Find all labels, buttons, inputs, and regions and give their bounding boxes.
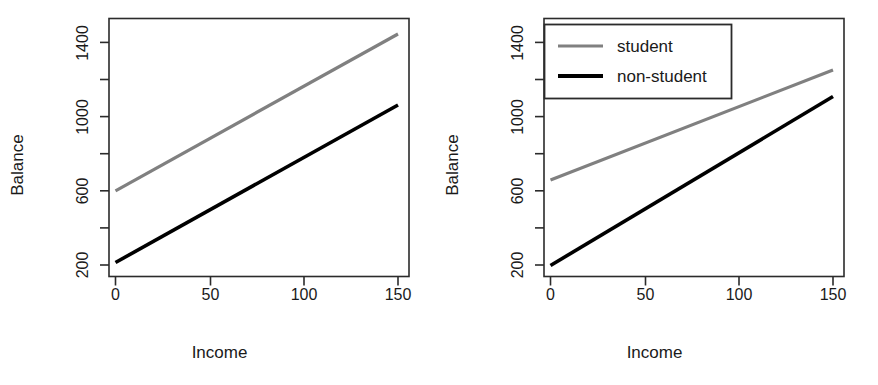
x-tick-label-150: 150 — [803, 286, 863, 304]
x-tick-label-100: 100 — [274, 286, 334, 304]
x-tick-label-150: 150 — [368, 286, 428, 304]
y-tick-label-1000: 1000 — [74, 87, 92, 147]
figure-container: 200 600 1000 1400 0 50 100 150 Income Ba… — [0, 0, 878, 385]
y-tick-label-1000: 1000 — [509, 87, 527, 147]
y-axis-ticks — [100, 42, 109, 265]
plot-area-right — [439, 0, 878, 385]
chart-panel-right: student non-student 200 600 1000 1400 0 … — [439, 0, 878, 385]
legend-box — [545, 25, 732, 99]
y-axis-title: Balance — [8, 100, 28, 230]
legend-label-non-student: non-student — [617, 67, 707, 87]
x-tick-label-50: 50 — [181, 286, 241, 304]
plot-area-left — [0, 0, 439, 385]
chart-panel-left: 200 600 1000 1400 0 50 100 150 Income Ba… — [0, 0, 439, 385]
y-tick-label-600: 600 — [74, 161, 92, 221]
y-axis-ticks — [535, 42, 544, 265]
x-tick-label-100: 100 — [709, 286, 769, 304]
legend-label-student: student — [617, 37, 673, 57]
x-tick-label-0: 0 — [86, 286, 146, 304]
x-tick-label-0: 0 — [521, 286, 581, 304]
y-tick-label-1400: 1400 — [509, 13, 527, 73]
x-axis-title: Income — [435, 343, 874, 363]
x-tick-label-50: 50 — [616, 286, 676, 304]
x-axis-ticks — [551, 277, 834, 286]
plot-frame — [109, 19, 409, 277]
x-axis-ticks — [116, 277, 399, 286]
x-axis-title: Income — [0, 343, 439, 363]
y-axis-title: Balance — [443, 100, 463, 230]
y-tick-label-1400: 1400 — [74, 13, 92, 73]
y-tick-label-600: 600 — [509, 161, 527, 221]
